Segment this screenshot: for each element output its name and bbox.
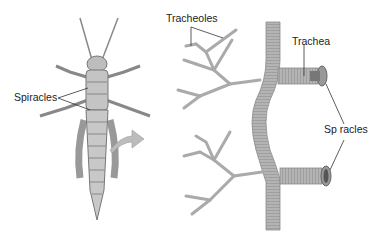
tracheoles-label: Tracheoles <box>166 13 218 24</box>
front-leg-right <box>104 66 140 78</box>
spiracles-label-right: Sp racles <box>324 124 368 135</box>
upper-tracheoles <box>178 30 260 108</box>
front-leg-left <box>56 66 90 78</box>
trachea-label: Trachea <box>292 36 330 47</box>
lower-trachea-branch <box>280 168 322 184</box>
antenna-right <box>102 18 118 60</box>
antenna-left <box>80 18 92 60</box>
trachea-trunk <box>252 22 280 230</box>
tracheal-system-illustration <box>178 22 331 230</box>
upper-spiracle-valve <box>310 71 320 81</box>
thorax <box>86 70 108 110</box>
spiracles-left-leaders <box>58 88 90 110</box>
mid-leg-right <box>106 100 150 116</box>
hind-leg-left <box>79 120 84 178</box>
lower-tracheoles <box>184 132 262 214</box>
spiracles-label-left: Spiracles <box>14 92 57 103</box>
grasshopper-illustration <box>40 18 150 220</box>
abdomen <box>86 110 108 220</box>
